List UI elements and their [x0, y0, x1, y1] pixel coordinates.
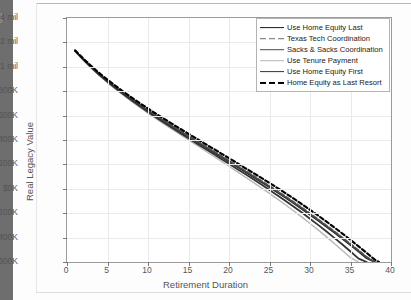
legend-line-swatch [259, 78, 285, 88]
y-tick [63, 140, 67, 141]
y-tick-label: $1.2 mil [0, 37, 18, 46]
x-tick [189, 262, 190, 266]
y-tick [63, 67, 67, 68]
x-tick [229, 262, 230, 266]
x-tick-label: 10 [132, 266, 162, 275]
legend-label: Texas Tech Coordination [287, 34, 370, 44]
legend-item[interactable]: Sacks & Sacks Coordination [259, 44, 386, 55]
scan-rule-left [36, 3, 37, 293]
x-tick [148, 262, 149, 266]
gridline-vertical [229, 18, 230, 262]
y-tick [63, 91, 67, 92]
y-tick-label: $600K [0, 111, 18, 120]
figure-page: 6-9 Real Legacy Value Retirement Duratio… [0, 0, 411, 300]
y-tick [63, 116, 67, 117]
scan-rule-bottom [36, 292, 411, 293]
y-tick-label: $800K [0, 86, 18, 95]
x-tick [270, 262, 271, 266]
legend-line-swatch [259, 23, 285, 33]
y-tick [63, 238, 67, 239]
y-tick [63, 164, 67, 165]
x-tick [351, 262, 352, 266]
legend-label: Home Equity as Last Resort [287, 78, 382, 88]
legend-label: Use Home Equity First [287, 67, 363, 77]
legend-line-swatch [259, 56, 285, 66]
x-tick-label: 0 [51, 266, 81, 275]
y-tick-label: -$600K [0, 257, 18, 266]
legend-label: Use Tenure Payment [287, 56, 358, 66]
legend-item[interactable]: Use Home Equity First [259, 66, 386, 77]
x-tick-label: 5 [92, 266, 122, 275]
legend-item[interactable]: Use Tenure Payment [259, 55, 386, 66]
y-tick-label: $0K [3, 184, 18, 193]
y-tick [63, 42, 67, 43]
x-tick [391, 262, 392, 266]
y-tick-label: -$400K [0, 233, 18, 242]
x-tick-label: 20 [213, 266, 243, 275]
gridline-vertical [189, 18, 190, 262]
y-tick [63, 18, 67, 19]
y-tick-label: $200K [0, 159, 18, 168]
legend-item[interactable]: Texas Tech Coordination [259, 33, 386, 44]
legend-label: Sacks & Sacks Coordination [287, 45, 383, 55]
gridline-vertical [148, 18, 149, 262]
x-tick-label: 25 [254, 266, 284, 275]
legend-item[interactable]: Use Home Equity Last [259, 22, 386, 33]
y-tick-label: $1 mil [0, 62, 18, 71]
legend-item[interactable]: Home Equity as Last Resort [259, 77, 386, 88]
y-tick-label: $1.4 mil [0, 13, 18, 22]
x-tick [310, 262, 311, 266]
x-tick-label: 30 [294, 266, 324, 275]
y-tick-label: -$200K [0, 208, 18, 217]
y-tick [63, 213, 67, 214]
x-tick-label: 35 [335, 266, 365, 275]
x-tick [67, 262, 68, 266]
x-tick-label: 15 [173, 266, 203, 275]
x-tick-label: 40 [375, 266, 405, 275]
legend-line-swatch [259, 67, 285, 77]
y-tick-label: $400K [0, 135, 18, 144]
legend-line-swatch [259, 45, 285, 55]
legend-label: Use Home Equity Last [287, 23, 363, 33]
y-axis-title: Real Legacy Value [24, 122, 35, 201]
legend-line-swatch [259, 34, 285, 44]
x-axis-title: Retirement Duration [0, 279, 411, 290]
scan-rule-top [36, 3, 411, 4]
gridline-vertical [108, 18, 109, 262]
y-tick [63, 189, 67, 190]
chart-legend[interactable]: Use Home Equity LastTexas Tech Coordinat… [256, 18, 390, 92]
x-tick [108, 262, 109, 266]
